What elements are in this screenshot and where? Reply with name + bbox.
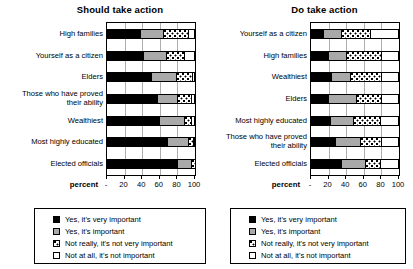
legend-item: Not really, it's not very important: [237, 237, 399, 249]
category-label: Elected officials: [209, 160, 311, 169]
bar-segment: [151, 72, 176, 82]
axis-tick-label: 40: [341, 180, 349, 189]
x-axis-right: -20406080100: [310, 176, 400, 198]
x-axis-label-left: percent: [38, 180, 98, 189]
bar-segment: [311, 94, 328, 104]
axis-tick-label: 20: [119, 180, 127, 189]
bar-segment: [356, 94, 382, 104]
bar-segment: [335, 137, 361, 147]
axis-tick: [310, 176, 311, 179]
bar-segment: [330, 116, 353, 126]
chart-row: Most highly educated: [107, 132, 195, 154]
axis-tick-label: -: [105, 180, 108, 189]
stacked-bar: [107, 51, 195, 61]
legend-label: Yes, it's important: [65, 227, 124, 236]
stacked-bar: [311, 159, 399, 169]
axis-tick: [380, 176, 381, 179]
stacked-bar: [107, 94, 195, 104]
bar-segment: [365, 159, 381, 169]
chart-row: Elders: [311, 88, 399, 110]
legend-swatch-empty-white: [53, 252, 60, 259]
chart-row: Elected officials: [311, 153, 399, 175]
chart-panel-should-take-action: Should take action High familiesYourself…: [0, 0, 206, 200]
bar-segment: [107, 137, 167, 147]
chart-row: Yourself as a citizen: [311, 23, 399, 45]
bar-segment: [381, 137, 399, 147]
legend-swatch-empty-white: [249, 252, 256, 259]
plot-area-left: High familiesYourself as a citizenElders…: [106, 22, 196, 176]
bar-segment: [107, 116, 159, 126]
legend-label: Not at all, it's not important: [65, 251, 155, 260]
category-label: Elders: [3, 73, 107, 82]
chart-row: Elected officials: [107, 153, 195, 175]
category-label: Most highly educated: [209, 116, 311, 125]
bar-segment: [311, 72, 331, 82]
stacked-bar: [311, 72, 399, 82]
stacked-bar: [311, 29, 399, 39]
axis-tick: [159, 176, 160, 179]
legend-item: Yes, it's important: [237, 225, 399, 237]
bar-segment: [167, 137, 188, 147]
bar-segment: [370, 29, 399, 39]
bar-segment: [311, 51, 328, 61]
bar-segment: [311, 137, 335, 147]
category-label: Those who have proved their ability: [209, 134, 311, 151]
bar-segment: [328, 94, 356, 104]
legend-swatch-solid-black: [53, 216, 60, 223]
bar-segment: [323, 29, 341, 39]
bar-segment: [191, 159, 195, 169]
chart-row: Elders: [107, 66, 195, 88]
chart-row: Yourself as a citizen: [107, 45, 195, 67]
stacked-bar: [107, 137, 195, 147]
stacked-bar: [311, 116, 399, 126]
stacked-bar: [107, 159, 195, 169]
chart-row: Those who have proved their ability: [107, 88, 195, 110]
legend-item: Yes, it's important: [41, 225, 199, 237]
legend-label: Yes, it's important: [261, 227, 320, 236]
chart-row: High families: [311, 45, 399, 67]
bar-segment: [381, 94, 399, 104]
legend-item: Not at all, it's not important: [41, 249, 199, 261]
axis-tick-label: -: [309, 180, 312, 189]
category-label: Yourself as a citizen: [3, 51, 107, 60]
bar-segment: [381, 72, 399, 82]
legend-swatch-dotted-hatch: [249, 240, 256, 247]
figure-root: Should take action High familiesYourself…: [0, 0, 413, 269]
legend-item: Yes, it's very important: [237, 213, 399, 225]
stacked-bar: [311, 137, 399, 147]
chart-row: Wealthiest: [311, 66, 399, 88]
bar-segment: [143, 51, 166, 61]
axis-tick: [141, 176, 142, 179]
legend-swatch-solid-black: [249, 216, 256, 223]
legend-label: Yes, it's very important: [261, 215, 337, 224]
chart-row: Wealthiest: [107, 110, 195, 132]
legend-swatch-dotted-hatch: [53, 240, 60, 247]
bar-segment: [107, 51, 143, 61]
category-label: Elders: [209, 95, 311, 104]
legend-label: Yes, it's very important: [65, 215, 141, 224]
axis-tick-label: 60: [359, 180, 367, 189]
stacked-bar: [107, 29, 195, 39]
axis-tick-label: 80: [172, 180, 180, 189]
axis-tick: [194, 176, 195, 179]
bar-segment: [184, 51, 195, 61]
bar-segment: [157, 94, 177, 104]
chart-title-left: Should take action: [0, 4, 206, 15]
axis-tick-label: 80: [376, 180, 384, 189]
bar-segment: [341, 29, 370, 39]
chart-row: High families: [107, 23, 195, 45]
bar-segment: [311, 159, 341, 169]
bar-segment: [177, 94, 190, 104]
chart-panel-do-take-action: Do take action Yourself as a citizenHigh…: [206, 0, 413, 200]
bar-segment: [328, 51, 346, 61]
bar-segment: [191, 94, 195, 104]
stacked-bar: [311, 51, 399, 61]
bar-segment: [380, 116, 399, 126]
legend-swatch-solid-gray: [249, 228, 256, 235]
plot-area-right: Yourself as a citizenHigh familiesWealth…: [310, 22, 400, 176]
x-axis-left: -20406080100: [106, 176, 196, 198]
legend-right: Yes, it's very importantYes, it's import…: [230, 208, 406, 264]
axis-tick: [363, 176, 364, 179]
chart-row: Most highly educated: [311, 110, 399, 132]
legend-swatch-solid-gray: [53, 228, 60, 235]
